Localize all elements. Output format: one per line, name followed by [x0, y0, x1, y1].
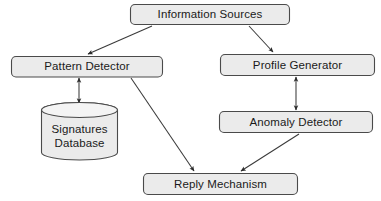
node-signatures-database[interactable]: Signatures Database	[42, 103, 118, 161]
edge-sources-to-profile	[249, 26, 273, 52]
cylinder-top	[42, 103, 118, 118]
node-profile-generator[interactable]: Profile Generator	[221, 55, 375, 76]
node-anomaly-detector[interactable]: Anomaly Detector	[220, 112, 373, 133]
edge-sources-to-pattern	[88, 26, 152, 54]
node-pattern-detector[interactable]: Pattern Detector	[12, 57, 163, 78]
diagram-canvas: Information Sources Pattern Detector Pro…	[0, 0, 381, 201]
architecture-diagram: Information Sources Pattern Detector Pro…	[0, 0, 381, 201]
node-label: Pattern Detector	[44, 60, 129, 72]
node-label: Information Sources	[158, 8, 263, 20]
edge-anomaly-to-reply	[241, 134, 299, 171]
edge-pattern-to-reply	[131, 78, 194, 171]
node-label: Reply Mechanism	[174, 178, 267, 190]
node-label: Profile Generator	[253, 59, 342, 71]
node-label-line-2: Database	[54, 137, 104, 149]
node-information-sources[interactable]: Information Sources	[131, 5, 290, 25]
node-label-line-1: Signatures	[52, 123, 108, 135]
node-label: Anomaly Detector	[250, 116, 343, 128]
node-reply-mechanism[interactable]: Reply Mechanism	[144, 174, 298, 195]
